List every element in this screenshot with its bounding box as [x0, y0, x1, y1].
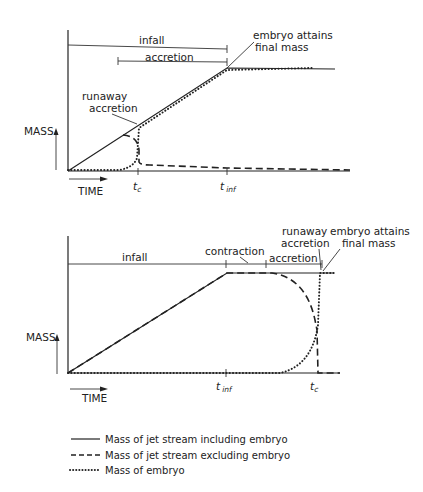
top-final-mass-leader: [227, 42, 254, 68]
top-runaway-annotation-1: runaway: [82, 90, 127, 102]
top-accretion-label: accretion: [145, 51, 194, 63]
top-series-embryo: [68, 68, 313, 170]
diagram-canvas: MASS TIME tc tinf infall accretion embr: [0, 0, 423, 492]
legend-item-dashed: Mass of jet stream excluding embryo: [71, 450, 290, 461]
top-tinf-label: tinf: [220, 180, 237, 194]
top-time-arrow-icon: [69, 177, 108, 182]
bottom-series-total-mass: [68, 273, 334, 373]
bottom-runaway-annotation-1: runaway: [282, 225, 327, 237]
legend-dotted-label: Mass of embryo: [105, 465, 185, 476]
top-runaway-leader: [112, 114, 137, 124]
legend: Mass of jet stream including embryo Mass…: [70, 434, 290, 476]
top-mass-label: MASS: [24, 125, 54, 137]
bottom-final-mass-annotation-2: final mass: [342, 237, 396, 249]
bottom-chart: MASS TIME tinf tc infall contraction acc…: [26, 225, 410, 404]
legend-dashed-label: Mass of jet stream excluding embryo: [105, 450, 290, 461]
bottom-contraction-label: contraction: [205, 245, 265, 257]
bottom-time-arrow-icon: [70, 387, 108, 392]
bottom-final-mass-annotation-1: embryo attains: [330, 225, 410, 237]
bottom-tinf-label: tinf: [216, 380, 233, 394]
legend-item-dotted: Mass of embryo: [70, 465, 185, 476]
top-runaway-annotation-2: accretion: [89, 102, 138, 114]
top-mass-arrow-icon: [54, 128, 59, 170]
top-time-label: TIME: [77, 185, 103, 197]
bottom-mass-label: MASS: [26, 331, 56, 343]
legend-item-solid: Mass of jet stream including embryo: [71, 434, 288, 445]
bottom-runaway-leader: [319, 249, 321, 270]
top-infall-label: infall: [139, 34, 165, 46]
top-series-total-mass: [68, 68, 335, 171]
bottom-final-mass-leader: [323, 249, 340, 271]
bottom-series-embryo: [68, 273, 334, 373]
bottom-infall-label: infall: [122, 251, 148, 263]
top-final-mass-annotation-1: embryo attains: [253, 29, 333, 41]
top-tc-label: tc: [133, 180, 142, 194]
bottom-tc-label: tc: [310, 380, 319, 394]
top-series-jet-stream: [123, 135, 350, 170]
bottom-contraction-leader: [240, 257, 248, 263]
legend-solid-label: Mass of jet stream including embryo: [105, 434, 288, 445]
bottom-accretion-label: accretion: [269, 252, 318, 264]
bottom-series-jet-stream: [68, 273, 340, 373]
bottom-mass-arrow-icon: [55, 334, 60, 374]
bottom-time-label: TIME: [81, 392, 107, 404]
top-chart: MASS TIME tc tinf infall accretion embr: [24, 29, 350, 197]
top-final-mass-annotation-2: final mass: [255, 41, 309, 53]
bottom-runaway-annotation-2: accretion: [281, 237, 330, 249]
